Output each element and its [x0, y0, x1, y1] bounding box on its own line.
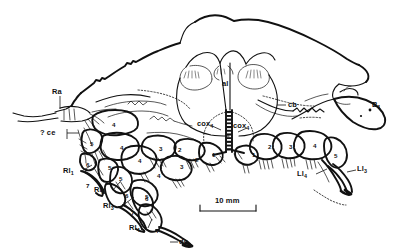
segment-number: 7 — [131, 210, 135, 216]
segment-number: 3 — [159, 146, 163, 152]
label-rl3: Rl3 — [103, 202, 114, 210]
segment-number: 5 — [145, 194, 149, 200]
figure-root: Ra ? ce al cb cox4 cox4 B1 Rl1 Rl2 Rl3 R… — [0, 0, 412, 250]
segment-number: 4 — [157, 173, 161, 179]
label-cox4-right: cox4 — [233, 122, 249, 130]
label-b1: B1 — [372, 101, 381, 109]
segment-number: 3 — [180, 164, 184, 170]
legs-right-group — [80, 110, 226, 247]
label-cb: cb — [288, 101, 297, 109]
segment-number: 2 — [268, 144, 272, 150]
segment-number: 5 — [119, 176, 123, 182]
label-ll3: Ll3 — [357, 165, 367, 173]
segment-number: 2 — [178, 147, 182, 153]
leader-ll3 — [347, 170, 356, 172]
scale-bar — [200, 205, 256, 211]
segment-number: 4 — [313, 143, 317, 149]
label-rl2: Rl2 — [94, 186, 105, 194]
label-dc: dc — [179, 238, 188, 246]
label-al: al — [222, 80, 228, 88]
label-ra: Ra — [52, 88, 62, 96]
segment-number: 1 — [212, 152, 216, 158]
label-ll4: Ll4 — [297, 170, 307, 178]
segment-number: 6 — [86, 162, 90, 168]
segment-number: 7 — [156, 228, 160, 234]
segment-number: 4 — [138, 158, 142, 164]
segment-number: 4 — [120, 145, 124, 151]
label-cox4-left: cox4 — [197, 120, 213, 128]
leader-ll4 — [316, 169, 327, 174]
segment-number: 5 — [334, 153, 338, 159]
segment-number: 5 — [108, 165, 112, 171]
segment-number: 5 — [90, 141, 94, 147]
segment-number: 4 — [112, 122, 116, 128]
sternal-suture-marks — [227, 111, 232, 151]
segment-number: 2 — [195, 157, 199, 163]
label-rl4: Rl4 — [129, 224, 140, 232]
segment-number: 6 — [125, 193, 129, 199]
segment-number: 7 — [86, 183, 90, 189]
antenna-ra — [13, 106, 104, 129]
leader-rl4 — [148, 219, 152, 228]
label-rl1: Rl1 — [63, 167, 74, 175]
leader-lines — [60, 96, 356, 242]
scale-bar-label: 10 mm — [215, 197, 240, 205]
segment-number: 3 — [289, 144, 293, 150]
label-ce: ? ce — [40, 129, 55, 137]
segment-number: 1 — [252, 152, 256, 158]
